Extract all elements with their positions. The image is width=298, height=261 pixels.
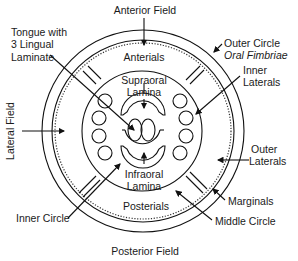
- outer-circle-label: Outer Circle: [224, 37, 280, 49]
- inner-laterals-arrow: [196, 76, 240, 114]
- outer-circle-arrow: [214, 44, 222, 52]
- left-lateral-circles: [92, 94, 112, 160]
- marginals-dotted-circle: [55, 43, 231, 219]
- posterior-field-label: Posterior Field: [111, 245, 179, 257]
- infraoral-label-line2: Lamina: [127, 180, 162, 192]
- inner-laterals-label-line2: Laterals: [243, 76, 280, 88]
- posterials-label: Posterials: [123, 200, 169, 212]
- tongue-label-line1: Tongue with: [11, 26, 67, 38]
- oral-field-diagram: Anterior Field Posterior Field Lateral F…: [0, 0, 298, 261]
- outer-laterals-label-line1: Outer: [251, 143, 278, 155]
- tongue-lingual-laminae: [122, 119, 164, 144]
- middle-circle: [52, 40, 234, 222]
- lateral-field-label: Lateral Field: [4, 102, 16, 160]
- infraoral-lamina-shape: [121, 146, 165, 168]
- infraoral-label-line1: Infraoral: [125, 168, 164, 180]
- inner-circle-label: Inner Circle: [16, 212, 70, 224]
- right-lateral-circles: [173, 94, 193, 160]
- middle-circle-label: Middle Circle: [215, 215, 276, 227]
- inner-laterals-label-line1: Inner: [243, 64, 267, 76]
- anterials-label: Anterials: [124, 51, 165, 63]
- tongue-label-line3: Laminate: [11, 51, 54, 63]
- inner-circle-arrow: [68, 164, 120, 218]
- outer-laterals-label-line2: Laterals: [249, 155, 286, 167]
- tongue-label-line2: 3 Lingual: [11, 38, 54, 50]
- marginals-label: Marginals: [228, 195, 274, 207]
- anterior-field-label: Anterior Field: [114, 4, 177, 16]
- oral-fimbriae-label: Oral Fimbriae: [224, 49, 288, 61]
